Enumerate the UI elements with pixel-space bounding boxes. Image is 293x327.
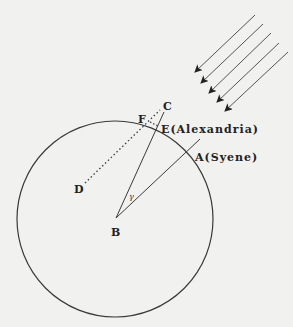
line-ba <box>116 139 200 218</box>
label-c: C <box>163 100 173 113</box>
label-d: D <box>74 183 85 196</box>
earth-circle <box>17 121 213 317</box>
eratosthenes-diagram: C F E(Alexandria) A(Syene) D B γ <box>0 0 293 327</box>
label-gamma: γ <box>129 192 134 201</box>
sun-ray-arrow <box>195 15 255 72</box>
label-b: B <box>111 226 121 239</box>
label-a-syene: A(Syene) <box>194 151 258 164</box>
sun-ray-arrow <box>201 24 263 83</box>
sun-rays <box>195 15 288 111</box>
line-bc <box>116 112 164 218</box>
dotted-segment-fe <box>150 122 158 126</box>
sun-ray-arrow <box>225 52 288 111</box>
sun-ray-arrow <box>209 33 271 93</box>
label-e-alexandria: E(Alexandria) <box>161 123 259 136</box>
label-f: F <box>138 113 147 126</box>
sun-ray-arrow <box>217 43 279 102</box>
